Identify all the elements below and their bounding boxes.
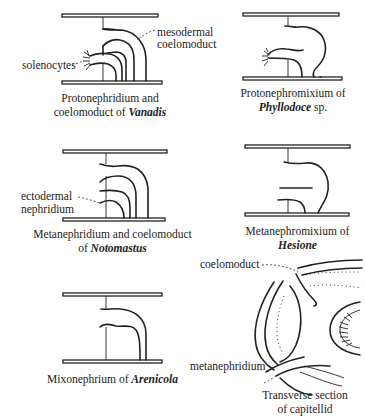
panel-notomastus-drawing: [63, 150, 167, 221]
label-metanephridium: metanephridium: [190, 360, 265, 373]
caption-phyllodoce: Protonephromixium of Phyllodoce sp.: [228, 86, 358, 114]
body-wall-top: [63, 150, 167, 153]
body-wall-bottom: [63, 360, 162, 363]
body-wall-top: [245, 145, 350, 148]
label-solenocytes: solenocytes: [22, 59, 76, 72]
panel-vanadis-drawing: [62, 14, 162, 84]
panel-hesione-drawing: [245, 145, 350, 216]
panel-arenicola-drawing: [63, 293, 162, 363]
body-wall-bottom: [243, 77, 342, 80]
panel-phyllodoce-drawing: [243, 13, 342, 80]
body-wall-top: [62, 14, 158, 17]
label-coelomoduct-section: coelomoduct: [200, 258, 259, 271]
caption-vanadis: Protonephridium and coelomoduct of Vanad…: [30, 91, 190, 119]
caption-capitellid: Transverse section of capitellid: [255, 388, 355, 416]
label-ectodermal: ectodermal: [21, 190, 72, 203]
caption-notomastus: Metanephridium and coelomoduct of Notoma…: [25, 227, 200, 255]
caption-hesione: Metanephromixium of Hesione: [235, 224, 360, 252]
label-nephridium: nephridium: [21, 203, 74, 216]
nephridia-figure: solenocytes mesodermal coelomoduct Proto…: [0, 0, 365, 417]
label-coelomoduct: coelomoduct: [157, 38, 216, 51]
body-wall-bottom: [245, 213, 349, 216]
panel-capitellid-drawing: [255, 260, 362, 395]
body-wall-top: [63, 293, 162, 296]
body-wall-bottom: [63, 218, 165, 221]
body-wall-bottom: [62, 81, 162, 84]
caption-arenicola: Mixonephrium of Arenicola: [30, 372, 195, 386]
body-wall-top: [243, 13, 339, 16]
